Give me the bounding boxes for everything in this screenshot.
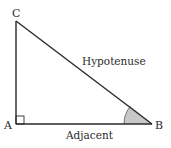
right-triangle-diagram: C A B Hypotenuse Adjacent <box>0 0 171 148</box>
right-angle-marker-a <box>16 116 24 124</box>
side-label-adjacent: Adjacent <box>65 129 114 141</box>
side-label-hypotenuse: Hypotenuse <box>82 55 146 67</box>
vertex-label-a: A <box>3 119 13 132</box>
side-cb-hypotenuse <box>16 21 152 124</box>
vertex-label-c: C <box>12 7 20 20</box>
vertex-label-b: B <box>155 119 163 132</box>
